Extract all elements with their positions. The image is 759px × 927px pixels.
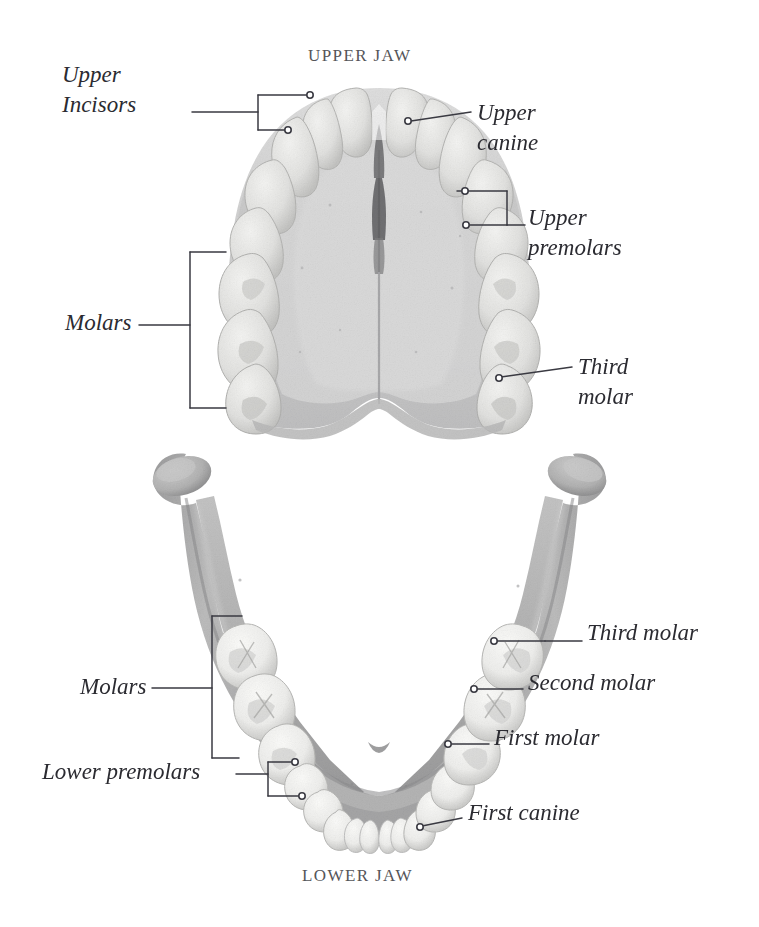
label-upper-third-molar-line2: molar [578,382,633,412]
label-upper-incisors-line1: Upper [62,60,136,90]
label-upper-incisors: Upper Incisors [62,60,136,120]
upper-jaw-title: UPPER JAW [308,46,411,66]
marker-upper-third-molar [496,375,502,381]
label-lower-molars: Molars [80,672,146,703]
marker-lower-third-molar [491,638,497,644]
label-upper-molars: Molars [65,308,131,339]
label-lower-first-molar: First molar [494,723,599,754]
label-lower-second-molar: Second molar [528,668,655,699]
jaw-anatomy-figure: UPPER JAW LOWER JAW Upper Incisors Upper… [0,0,759,927]
marker-upper-lateral-incisor [285,127,291,133]
marker-upper-central-incisor [307,92,313,98]
label-lower-premolars: Lower premolars [42,757,200,788]
label-upper-canine-line2: canine [477,128,538,158]
label-upper-third-molar: Third molar [578,352,633,412]
label-lower-first-canine: First canine [468,798,580,829]
anatomy-illustration [0,0,759,927]
lower-jaw-mandible [148,449,611,853]
label-upper-incisors-line2: Incisors [62,90,136,120]
marker-lower-second-molar [471,686,477,692]
marker-upper-premolar-1 [462,188,468,194]
label-upper-premolars-line1: Upper [528,203,622,233]
label-upper-premolars-line2: premolars [528,233,622,263]
marker-lower-first-molar [445,741,451,747]
marker-lower-premolar-1 [292,759,298,765]
label-lower-third-molar: Third molar [587,618,698,649]
marker-upper-premolar-2 [463,222,469,228]
label-upper-premolars: Upper premolars [528,203,622,263]
label-upper-canine: Upper canine [477,98,538,158]
marker-lower-first-canine [417,824,423,830]
label-upper-canine-line1: Upper [477,98,538,128]
marker-upper-canine [405,118,411,124]
label-upper-third-molar-line1: Third [578,352,633,382]
leader-upper-molars [139,252,226,408]
lower-jaw-title: LOWER JAW [302,866,413,886]
marker-lower-premolar-2 [299,793,305,799]
